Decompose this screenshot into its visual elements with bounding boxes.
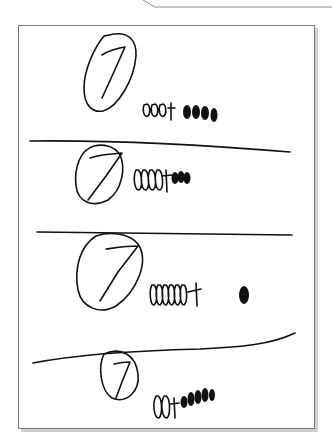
digit-seven xyxy=(114,362,130,398)
plus-sign xyxy=(162,170,172,192)
divider-line-3 xyxy=(33,333,295,363)
digit-seven xyxy=(102,47,125,98)
open-circles xyxy=(134,170,162,190)
plus-sign xyxy=(188,283,201,306)
digit-seven xyxy=(88,153,122,200)
plus-sign xyxy=(170,398,179,418)
open-circles xyxy=(150,285,186,305)
plus-sign xyxy=(168,103,175,120)
filled-circles-row-4 xyxy=(181,388,216,408)
digit-seven xyxy=(100,246,138,301)
filled-circles-row-2 xyxy=(172,171,191,184)
handwriting-drawing xyxy=(0,0,332,448)
filled-circles-row-1 xyxy=(183,105,218,122)
divider-line-1 xyxy=(30,141,290,152)
filled-circles-row-3 xyxy=(239,286,249,304)
row-1 xyxy=(84,34,175,120)
number-circle-icon xyxy=(84,34,136,112)
number-circle-icon xyxy=(101,351,138,399)
open-circles xyxy=(143,104,166,116)
open-circles xyxy=(154,396,170,418)
divider-line-2 xyxy=(37,232,292,235)
number-circle-icon xyxy=(77,234,143,310)
